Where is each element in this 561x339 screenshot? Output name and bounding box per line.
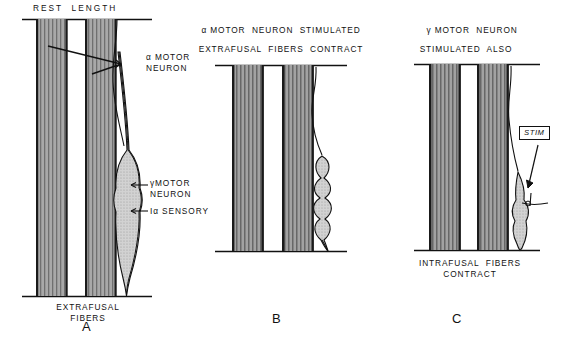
panel-c-footer-line-2: CONTRACT — [395, 269, 545, 280]
panel-c-footer-line-1: INTRAFUSAL FIBERS — [395, 258, 545, 269]
stim-box[interactable]: STIM — [519, 126, 550, 140]
panel-c-extrafusal-fibers — [429, 64, 509, 250]
panel-c-header-line-2: STIMULATED ALSO — [386, 44, 546, 55]
panel-c-letter: C — [452, 310, 461, 328]
panel-c-header-line-1: γ MOTOR NEURON — [392, 25, 552, 36]
figure-canvas: REST LENGTH α MOTOR NEURON γMOTOR NEURON… — [0, 0, 561, 339]
panel-c-muscle-spindle — [512, 172, 528, 251]
panel-c-stim-arrow — [527, 145, 539, 206]
